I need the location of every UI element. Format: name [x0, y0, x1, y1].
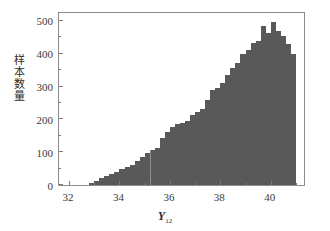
y-axis-tick-label: 100: [37, 148, 54, 159]
plot-area: [58, 12, 305, 186]
x-axis-title-subscript: 12: [165, 217, 172, 225]
y-axis-tick-label: 500: [37, 16, 54, 27]
y-axis-tick-label: 400: [37, 49, 54, 60]
x-axis-tick: [119, 181, 120, 185]
y-axis-tick: [59, 151, 63, 152]
y-axis-tick-label: 0: [48, 181, 54, 192]
y-axis-tick: [59, 86, 63, 87]
y-axis-minor-tick: [59, 69, 61, 70]
x-axis-tick-label: 40: [255, 192, 285, 203]
y-axis-minor-tick: [59, 36, 61, 37]
y-axis-tick: [59, 184, 63, 185]
x-axis-tick-label: 34: [103, 192, 133, 203]
histogram-bar: [291, 54, 296, 185]
x-axis-tick: [69, 181, 70, 185]
x-axis-minor-tick: [94, 183, 95, 185]
x-axis-tick: [220, 181, 221, 185]
y-axis-tick-label: 300: [37, 82, 54, 93]
x-axis-title: Y12: [0, 209, 330, 225]
x-axis-minor-tick: [296, 183, 297, 185]
x-axis-tick: [271, 181, 272, 185]
histogram-bars: [59, 13, 304, 185]
x-axis-minor-tick: [145, 183, 146, 185]
y-axis-tick: [59, 20, 63, 21]
y-axis-minor-tick: [59, 135, 61, 136]
x-axis-minor-tick: [195, 183, 196, 185]
x-axis-tick-label: 38: [204, 192, 234, 203]
y-axis-tick: [59, 118, 63, 119]
y-axis-minor-tick: [59, 102, 61, 103]
scan-artifact-line: [150, 146, 151, 185]
y-axis-tick-label: 200: [37, 115, 54, 126]
histogram-figure: 样 本 数 量 0100200300400500 3234363840 Y12: [0, 0, 330, 231]
y-axis-title: 样 本 数 量: [11, 55, 27, 103]
y-axis-title-char-2: 数: [11, 79, 27, 91]
x-axis-tick-label: 36: [154, 192, 184, 203]
y-axis-title-char-3: 量: [11, 91, 27, 103]
y-axis-tick: [59, 53, 63, 54]
y-axis-title-char-1: 本: [11, 67, 27, 79]
x-axis-minor-tick: [246, 183, 247, 185]
x-axis-tick-label: 32: [53, 192, 83, 203]
x-axis-tick: [170, 181, 171, 185]
y-axis-minor-tick: [59, 168, 61, 169]
